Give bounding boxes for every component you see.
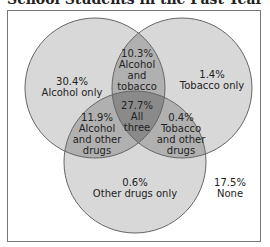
- label-alcohol-other: 11.9% Alcohol and other drugs: [72, 112, 122, 156]
- label-alcohol-only: 30.4% Alcohol only: [32, 76, 112, 98]
- label-other-only: 0.6% Other drugs only: [85, 177, 185, 199]
- label-none: 17.5% None: [205, 177, 255, 199]
- label-alcohol-tobacco: 10.3% Alcohol and tobacco: [113, 48, 161, 92]
- label-tobacco-other: 0.4% Tobacco and other drugs: [154, 112, 208, 156]
- label-tobacco-only: 1.4% Tobacco only: [167, 69, 257, 91]
